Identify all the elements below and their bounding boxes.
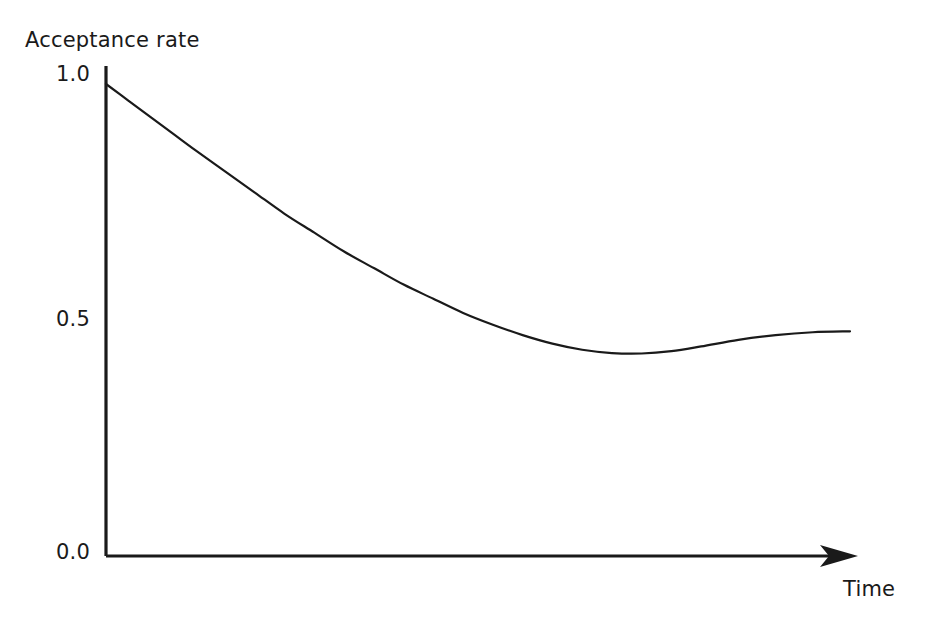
y-axis-label: Acceptance rate (25, 28, 200, 52)
data-series-acceptance-rate (106, 84, 850, 354)
y-tick-label-0.5: 0.5 (34, 307, 90, 331)
x-axis-label: Time (843, 577, 895, 601)
y-tick-label-0.0: 0.0 (34, 540, 90, 564)
y-tick-label-1.0: 1.0 (34, 62, 90, 86)
chart-figure: Acceptance rate Time 1.0 0.5 0.0 (0, 0, 929, 631)
chart-plot-area (0, 0, 929, 631)
